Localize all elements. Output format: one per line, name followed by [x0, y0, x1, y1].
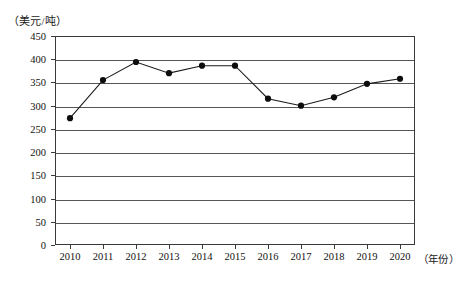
y-axis-tick-label: 300: [30, 100, 46, 111]
gridline: [56, 60, 414, 61]
y-axis-tick-mark: [51, 82, 55, 83]
x-axis-tick-label: 2018: [324, 251, 345, 262]
x-axis-tick-label: 2016: [258, 251, 279, 262]
y-axis-tick-mark: [51, 129, 55, 130]
plot-area: [55, 36, 415, 245]
x-axis-tick-label: 2015: [225, 251, 246, 262]
x-axis-tick-label: 2012: [126, 251, 147, 262]
y-axis-tick-label: 100: [30, 193, 46, 204]
gridline: [56, 153, 414, 154]
gridline: [56, 83, 414, 84]
y-axis-tick-label: 450: [30, 31, 46, 42]
y-axis-tick-label-group: 050100150200250300350400450: [0, 0, 51, 282]
x-axis-tick-mark: [334, 245, 335, 249]
x-axis-tick-mark: [235, 245, 236, 249]
y-axis-tick-mark: [51, 36, 55, 37]
x-axis-tick-label: 2013: [159, 251, 180, 262]
gridline: [56, 107, 414, 108]
x-axis-tick-mark: [367, 245, 368, 249]
x-axis-tick-label: 2017: [291, 251, 312, 262]
x-axis-tick-label: 2010: [60, 251, 81, 262]
y-axis-tick-mark: [51, 106, 55, 107]
y-axis-tick-mark: [51, 245, 55, 246]
y-axis-tick-label: 150: [30, 170, 46, 181]
x-axis-tick-mark: [169, 245, 170, 249]
gridline: [56, 176, 414, 177]
x-axis-tick-mark: [301, 245, 302, 249]
x-axis-tick-label: 2011: [93, 251, 114, 262]
chart-figure: （美元/吨） 050100150200250300350400450 （年份） …: [0, 0, 464, 282]
y-axis-tick-label: 250: [30, 123, 46, 134]
x-axis-tick-mark: [103, 245, 104, 249]
y-axis-tick-label: 400: [30, 54, 46, 65]
gridline: [56, 223, 414, 224]
x-axis-tick-mark: [136, 245, 137, 249]
x-axis-tick-mark: [268, 245, 269, 249]
x-axis-tick-label: 2014: [192, 251, 213, 262]
x-axis-tick-mark: [400, 245, 401, 249]
gridline: [56, 130, 414, 131]
x-axis-tick-mark: [70, 245, 71, 249]
y-axis-tick-label: 50: [36, 216, 47, 227]
x-axis-tick-label: 2020: [390, 251, 411, 262]
y-axis-tick-mark: [51, 59, 55, 60]
gridline: [56, 200, 414, 201]
x-axis-tick-mark: [202, 245, 203, 249]
x-axis-tick-label: 2019: [357, 251, 378, 262]
y-axis-tick-mark: [51, 175, 55, 176]
y-axis-tick-mark: [51, 152, 55, 153]
y-axis-tick-label: 0: [41, 240, 46, 251]
x-axis-unit-label: （年份）: [418, 251, 459, 266]
y-axis-tick-mark: [51, 199, 55, 200]
y-axis-tick-mark: [51, 222, 55, 223]
y-axis-tick-label: 200: [30, 147, 46, 158]
y-axis-tick-label: 350: [30, 77, 46, 88]
